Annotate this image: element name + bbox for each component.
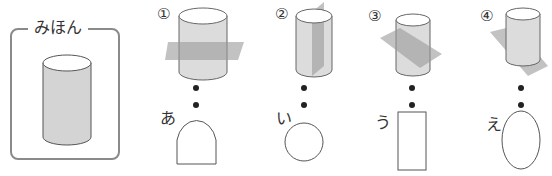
diagram-canvas — [0, 0, 552, 176]
cylinder-4 — [490, 8, 548, 169]
cylinder-1 — [165, 8, 244, 164]
answer-label-e: え — [486, 116, 502, 134]
result-shape-arch — [177, 121, 216, 164]
answer-label-i: い — [276, 110, 292, 128]
dot — [518, 102, 524, 108]
result-shape-circle — [285, 123, 323, 161]
dot — [193, 85, 199, 91]
dot — [193, 102, 199, 108]
cylinder-3 — [380, 14, 442, 170]
dot — [409, 85, 415, 91]
cylinder-2 — [285, 2, 332, 161]
dot — [301, 85, 307, 91]
sample-cylinder — [43, 55, 91, 145]
item-number-3: ③ — [368, 8, 381, 24]
item-number-4: ④ — [480, 8, 493, 24]
item-number-1: ① — [157, 6, 170, 22]
dot — [409, 102, 415, 108]
dot — [518, 85, 524, 91]
answer-label-u: う — [375, 114, 391, 132]
item-number-2: ② — [275, 6, 288, 22]
dot — [301, 102, 307, 108]
result-shape-rectangle — [398, 112, 426, 170]
result-shape-ellipse — [502, 111, 540, 169]
answer-label-a: あ — [160, 110, 176, 128]
